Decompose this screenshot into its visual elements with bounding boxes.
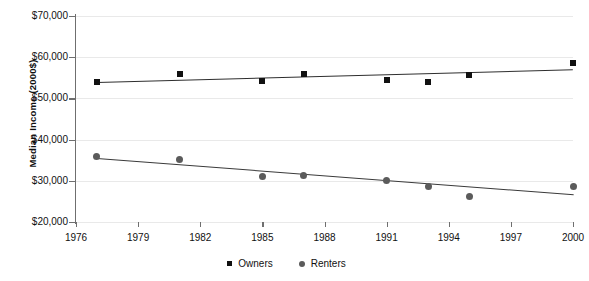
plot-area xyxy=(76,16,573,222)
trendline-owners xyxy=(97,69,573,83)
legend-label-renters: Renters xyxy=(311,258,346,269)
data-point-renters xyxy=(93,153,100,160)
data-point-renters xyxy=(570,183,577,190)
data-point-renters xyxy=(383,177,390,184)
y-axis-tick-mark xyxy=(69,140,75,141)
legend-item-renters: Renters xyxy=(299,258,346,269)
x-axis-tick-label: 2000 xyxy=(551,232,589,243)
y-axis-tick-mark xyxy=(69,222,75,223)
gridline xyxy=(76,98,573,99)
y-axis-tick-label: $50,000 xyxy=(12,92,68,103)
data-point-owners xyxy=(570,60,576,66)
legend-item-owners: Owners xyxy=(227,258,272,269)
y-axis-tick-label: $20,000 xyxy=(12,216,68,227)
gridline xyxy=(76,16,573,17)
data-point-owners xyxy=(466,72,472,78)
x-axis-tick-mark xyxy=(76,222,77,227)
gridline xyxy=(76,181,573,182)
y-axis-tick-mark xyxy=(69,16,75,17)
x-axis-tick-label: 1997 xyxy=(489,232,533,243)
legend-label-owners: Owners xyxy=(238,258,272,269)
x-axis-tick-label: 1976 xyxy=(54,232,98,243)
x-axis-tick-label: 1982 xyxy=(178,232,222,243)
circle-marker-icon xyxy=(299,261,305,267)
data-point-owners xyxy=(177,71,183,77)
data-point-renters xyxy=(300,172,307,179)
x-axis-tick-mark xyxy=(262,222,263,227)
x-axis-tick-label: 1988 xyxy=(303,232,347,243)
gridline xyxy=(76,57,573,58)
x-axis-tick-mark xyxy=(200,222,201,227)
data-point-owners xyxy=(301,71,307,77)
y-axis-tick-mark xyxy=(69,57,75,58)
trendline-renters xyxy=(97,158,573,196)
gridline xyxy=(76,140,573,141)
x-axis-tick-mark xyxy=(511,222,512,227)
chart-legend: Owners Renters xyxy=(0,258,573,269)
x-axis-tick-label: 1994 xyxy=(427,232,471,243)
y-axis-tick-label: $40,000 xyxy=(12,134,68,145)
data-point-renters xyxy=(176,156,183,163)
data-point-owners xyxy=(384,77,390,83)
y-axis-tick-mark xyxy=(69,98,75,99)
x-axis-tick-label: 1979 xyxy=(116,232,160,243)
x-axis-tick-label: 1985 xyxy=(240,232,284,243)
y-axis-tick-label: $30,000 xyxy=(12,175,68,186)
y-axis-tick-label: $60,000 xyxy=(12,51,68,62)
x-axis-tick-mark xyxy=(138,222,139,227)
data-point-renters xyxy=(425,183,432,190)
x-axis-tick-mark xyxy=(573,222,574,227)
data-point-owners xyxy=(94,79,100,85)
data-point-owners xyxy=(259,78,265,84)
square-marker-icon xyxy=(227,261,232,266)
x-axis-tick-mark xyxy=(325,222,326,227)
x-axis-tick-mark xyxy=(449,222,450,227)
y-axis-tick-mark xyxy=(69,181,75,182)
data-point-renters xyxy=(259,173,266,180)
data-point-owners xyxy=(425,79,431,85)
data-point-renters xyxy=(466,193,473,200)
x-axis-tick-label: 1991 xyxy=(365,232,409,243)
x-axis-tick-mark xyxy=(387,222,388,227)
y-axis-tick-label: $70,000 xyxy=(12,10,68,21)
